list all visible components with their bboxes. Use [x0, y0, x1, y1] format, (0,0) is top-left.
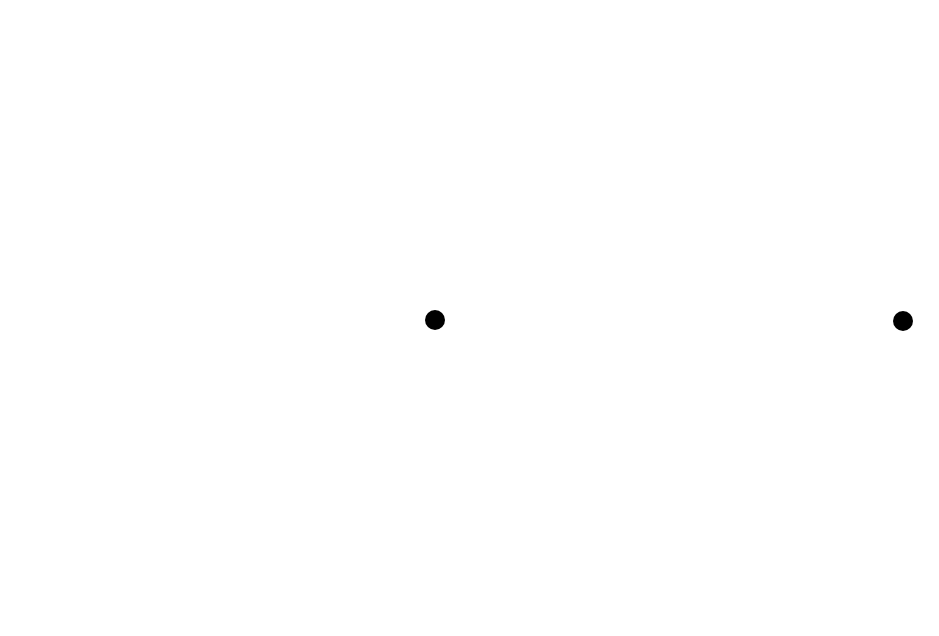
- dot-left: [425, 310, 445, 330]
- dot-right: [893, 311, 913, 331]
- image-canvas: [0, 0, 939, 636]
